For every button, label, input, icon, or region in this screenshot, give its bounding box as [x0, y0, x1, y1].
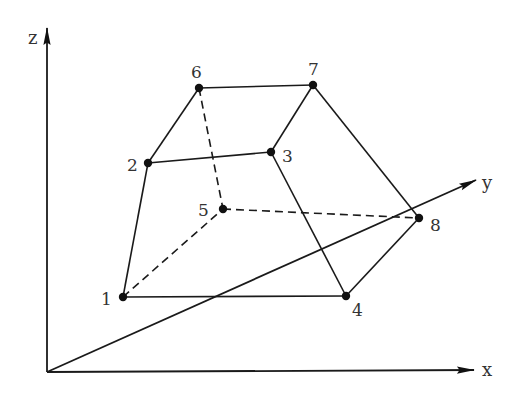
hidden-edge-1-5: [123, 209, 223, 297]
visible-edge-1-2: [123, 163, 148, 297]
vertex-label-8: 8: [430, 215, 441, 235]
vertex-label-2: 2: [127, 155, 138, 175]
vertex-1: [119, 293, 127, 301]
vertex-label-7: 7: [308, 59, 319, 79]
vertex-2: [144, 159, 152, 167]
x-axis-label: x: [482, 359, 492, 380]
visible-edge-2-3: [148, 152, 271, 163]
vertex-5: [219, 205, 227, 213]
visible-edge-7-8: [313, 85, 419, 218]
vertex-6: [195, 84, 203, 92]
vertex-label-3: 3: [282, 146, 293, 166]
vertices-group: [119, 81, 423, 301]
vertex-4: [342, 292, 350, 300]
vertex-label-4: 4: [352, 300, 363, 320]
hidden-edge-6-5: [199, 88, 223, 209]
visible-edge-2-6: [148, 88, 199, 163]
axes-group: z x y: [28, 27, 493, 380]
hidden-edge-5-8: [223, 209, 419, 218]
visible-edges-group: [123, 85, 419, 297]
vertex-label-5: 5: [198, 200, 209, 220]
visible-edge-1-4: [123, 296, 346, 297]
vertex-labels-group: 12345678: [101, 59, 441, 320]
vertex-3: [267, 148, 275, 156]
y-axis-label: y: [481, 172, 493, 193]
vertex-7: [309, 81, 317, 89]
vertex-label-6: 6: [191, 62, 202, 82]
x-axis: [47, 370, 474, 372]
vertex-label-1: 1: [101, 289, 112, 309]
visible-edge-3-7: [271, 85, 313, 152]
visible-edge-3-4: [271, 152, 346, 296]
hexahedron-diagram: z x y 12345678: [0, 0, 519, 395]
visible-edge-6-7: [199, 85, 313, 88]
z-axis-label: z: [28, 27, 37, 48]
visible-edge-4-8: [346, 218, 419, 296]
vertex-8: [415, 214, 423, 222]
